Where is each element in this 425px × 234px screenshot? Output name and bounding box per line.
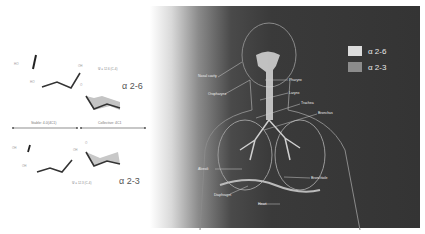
legend-label-a23: α 2-3 [368,63,386,72]
anatomy-svg [0,0,425,234]
legend-swatch-a26 [348,46,362,56]
anatomy-label-larynx: Larynx [289,91,300,95]
anatomy-label-bronchiole: Bronchiole [311,176,328,180]
anatomy-label-nasal-cavity: Nasal cavity [198,74,217,78]
legend-swatch-a23 [348,62,362,72]
torso-outline [200,110,360,230]
diaphragm [220,180,320,192]
anatomy-label-diaphragm: Diaphragm [214,193,231,197]
anatomy-label-bronchus: Bronchus [318,111,333,115]
legend-label-a26: α 2-6 [368,47,386,56]
anatomy-label-oropharynx: Oropharynx [208,92,226,96]
anatomy-label-trachea: Trachea [301,101,314,105]
anatomy-label-heart: Heart [258,202,267,206]
anatomy-label-alveoli: Alveoli [198,167,208,171]
anatomy-label-pharynx: Pharynx [289,78,302,82]
